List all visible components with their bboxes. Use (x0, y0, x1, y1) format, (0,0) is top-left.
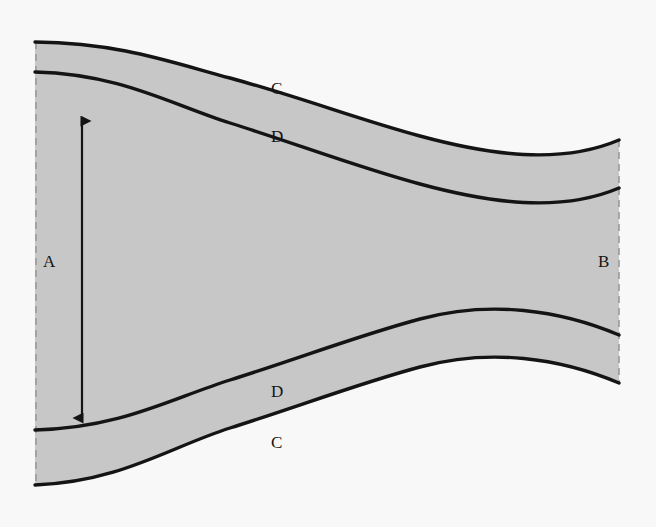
label-inner-layer-top-d: D (271, 128, 283, 145)
label-section-b: B (598, 253, 609, 270)
label-outer-layer-bottom-c: C (271, 434, 282, 451)
label-inner-layer-bottom-d: D (271, 383, 283, 400)
diagram-canvas: A B C D D C (0, 0, 656, 527)
label-section-a: A (43, 253, 55, 270)
label-outer-layer-top-c: C (271, 80, 282, 97)
flow-diagram-svg (0, 0, 656, 527)
